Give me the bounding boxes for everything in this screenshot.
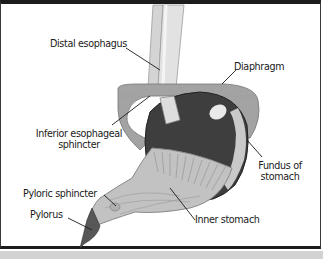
label-fundus-of-stomach: Fundus of stomach xyxy=(250,160,310,182)
label-distal-esophagus: Distal esophagus xyxy=(50,38,127,49)
label-diaphragm: Diaphragm xyxy=(234,61,284,72)
label-line: stomach xyxy=(250,171,310,182)
label-pylorus: Pylorus xyxy=(30,209,63,220)
label-line: sphincter xyxy=(34,139,124,150)
label-inferior-esophageal-sphincter: Inferior esophageal sphincter xyxy=(34,128,124,150)
label-line: Inferior esophageal xyxy=(34,128,124,139)
esophagus-shape xyxy=(148,5,184,88)
label-inner-stomach: Inner stomach xyxy=(195,214,260,225)
label-line: Fundus of xyxy=(250,160,310,171)
label-pyloric-sphincter: Pyloric sphincter xyxy=(23,188,97,199)
